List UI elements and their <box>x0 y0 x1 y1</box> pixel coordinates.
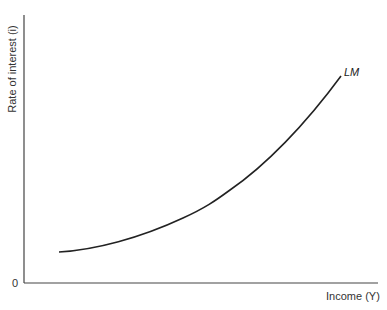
lm-chart <box>0 0 387 310</box>
origin-label: 0 <box>12 277 18 289</box>
lm-curve-label: LM <box>344 66 359 78</box>
lm-curve <box>59 76 341 252</box>
y-axis-label: Rate of interest (i) <box>6 4 20 134</box>
x-axis-label: Income (Y) <box>326 290 380 302</box>
